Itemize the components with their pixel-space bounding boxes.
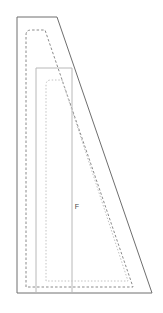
- pattern-vector-drawing: F: [0, 0, 163, 313]
- pattern-drawing-canvas: F: [0, 0, 163, 313]
- piece-label: F: [75, 203, 79, 210]
- canvas-background: [0, 0, 163, 313]
